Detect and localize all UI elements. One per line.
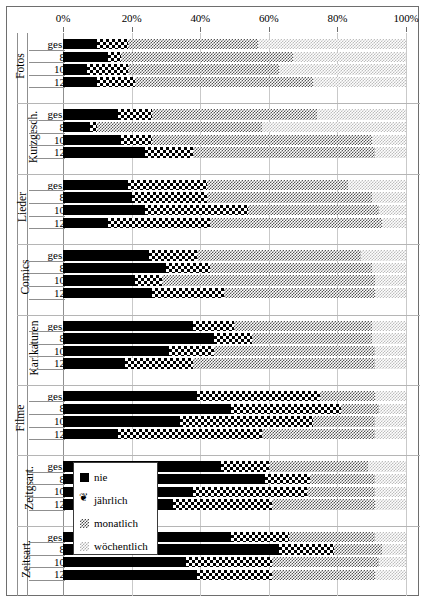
bar-row[interactable]: 12 bbox=[7, 568, 420, 581]
bar-segment-jährlich[interactable] bbox=[221, 461, 269, 471]
bar-row[interactable]: 10 bbox=[7, 274, 420, 287]
bar-row[interactable]: 8 bbox=[7, 402, 420, 415]
bar-row[interactable]: 12 bbox=[7, 498, 420, 511]
bar-segment-wöchentlich[interactable] bbox=[375, 429, 406, 439]
stacked-bar[interactable] bbox=[63, 346, 406, 356]
stacked-bar[interactable] bbox=[63, 404, 406, 414]
bar-segment-jährlich[interactable] bbox=[118, 429, 262, 439]
bar-segment-nie[interactable] bbox=[63, 416, 180, 426]
bar-row[interactable]: 10 bbox=[7, 415, 420, 428]
bar-segment-monatlich[interactable] bbox=[272, 570, 375, 580]
bar-segment-monatlich[interactable] bbox=[128, 64, 279, 74]
bar-segment-nie[interactable] bbox=[63, 122, 90, 132]
bar-segment-jährlich[interactable] bbox=[197, 391, 320, 401]
bar-row[interactable]: ges. bbox=[7, 460, 420, 473]
bar-row[interactable]: 8 bbox=[7, 543, 420, 556]
bar-segment-wöchentlich[interactable] bbox=[375, 275, 406, 285]
bar-row[interactable]: 8 bbox=[7, 473, 420, 486]
bar-segment-jährlich[interactable] bbox=[279, 544, 334, 554]
bar-segment-monatlich[interactable] bbox=[135, 77, 313, 87]
bar-row[interactable]: ges. bbox=[7, 108, 420, 121]
bar-segment-nie[interactable] bbox=[63, 109, 118, 119]
bar-segment-jährlich[interactable] bbox=[265, 474, 310, 484]
bar-row[interactable]: 8 bbox=[7, 191, 420, 204]
bar-segment-monatlich[interactable] bbox=[210, 263, 371, 273]
bar-segment-jährlich[interactable] bbox=[197, 570, 272, 580]
bar-segment-jährlich[interactable] bbox=[108, 218, 211, 228]
bar-segment-monatlich[interactable] bbox=[272, 499, 375, 509]
bar-segment-monatlich[interactable] bbox=[128, 39, 258, 49]
bar-segment-wöchentlich[interactable] bbox=[375, 416, 406, 426]
bar-segment-monatlich[interactable] bbox=[269, 461, 368, 471]
bar-segment-monatlich[interactable] bbox=[320, 391, 375, 401]
bar-segment-jährlich[interactable] bbox=[145, 205, 248, 215]
bar-segment-nie[interactable] bbox=[63, 250, 149, 260]
stacked-bar[interactable] bbox=[63, 333, 406, 343]
bar-row[interactable]: 12 bbox=[7, 76, 420, 89]
bar-row[interactable]: ges. bbox=[7, 179, 420, 192]
bar-row[interactable]: 10 bbox=[7, 63, 420, 76]
stacked-bar[interactable] bbox=[63, 147, 406, 157]
bar-segment-wöchentlich[interactable] bbox=[313, 77, 406, 87]
bar-segment-wöchentlich[interactable] bbox=[293, 52, 406, 62]
bar-segment-wöchentlich[interactable] bbox=[258, 39, 405, 49]
bar-segment-monatlich[interactable] bbox=[289, 532, 375, 542]
stacked-bar[interactable] bbox=[63, 77, 406, 87]
bar-segment-jährlich[interactable] bbox=[128, 180, 207, 190]
bar-row[interactable]: ges. bbox=[7, 531, 420, 544]
bar-segment-wöchentlich[interactable] bbox=[375, 288, 406, 298]
bar-segment-jährlich[interactable] bbox=[231, 404, 341, 414]
bar-segment-wöchentlich[interactable] bbox=[372, 135, 406, 145]
bar-segment-nie[interactable] bbox=[63, 275, 135, 285]
bar-segment-nie[interactable] bbox=[63, 346, 169, 356]
bar-segment-monatlich[interactable] bbox=[152, 109, 317, 119]
stacked-bar[interactable] bbox=[63, 275, 406, 285]
bar-row[interactable]: 12 bbox=[7, 287, 420, 300]
bar-segment-nie[interactable] bbox=[63, 205, 145, 215]
legend-item-monatlich[interactable]: monatlich bbox=[80, 516, 138, 530]
bar-segment-wöchentlich[interactable] bbox=[375, 147, 406, 157]
bar-segment-jährlich[interactable] bbox=[145, 147, 193, 157]
bar-segment-nie[interactable] bbox=[63, 77, 97, 87]
bar-segment-wöchentlich[interactable] bbox=[372, 333, 406, 343]
bar-row[interactable]: 8 bbox=[7, 332, 420, 345]
stacked-bar[interactable] bbox=[63, 358, 406, 368]
bar-segment-jährlich[interactable] bbox=[152, 288, 224, 298]
bar-row[interactable]: 12 bbox=[7, 217, 420, 230]
stacked-bar[interactable] bbox=[63, 416, 406, 426]
bar-segment-monatlich[interactable] bbox=[234, 321, 371, 331]
bar-segment-nie[interactable] bbox=[63, 404, 231, 414]
bar-segment-monatlich[interactable] bbox=[341, 404, 379, 414]
bar-row[interactable]: ges. bbox=[7, 38, 420, 51]
stacked-bar[interactable] bbox=[63, 135, 406, 145]
bar-segment-wöchentlich[interactable] bbox=[375, 487, 406, 497]
bar-segment-jährlich[interactable] bbox=[87, 64, 128, 74]
bar-segment-monatlich[interactable] bbox=[210, 218, 382, 228]
bar-segment-wöchentlich[interactable] bbox=[279, 64, 406, 74]
bar-segment-nie[interactable] bbox=[63, 321, 193, 331]
bar-row[interactable]: 8 bbox=[7, 262, 420, 275]
bar-segment-jährlich[interactable] bbox=[173, 499, 272, 509]
bar-row[interactable]: 10 bbox=[7, 556, 420, 569]
stacked-bar[interactable] bbox=[63, 180, 406, 190]
bar-segment-nie[interactable] bbox=[63, 52, 108, 62]
bar-row[interactable]: 12 bbox=[7, 357, 420, 370]
bar-segment-jährlich[interactable] bbox=[193, 487, 306, 497]
bar-segment-jährlich[interactable] bbox=[108, 52, 122, 62]
bar-row[interactable]: 12 bbox=[7, 428, 420, 441]
stacked-bar[interactable] bbox=[63, 52, 406, 62]
stacked-bar[interactable] bbox=[63, 557, 406, 567]
bar-segment-wöchentlich[interactable] bbox=[372, 263, 406, 273]
bar-row[interactable]: 8 bbox=[7, 121, 420, 134]
bar-row[interactable]: 12 bbox=[7, 146, 420, 159]
stacked-bar[interactable] bbox=[63, 192, 406, 202]
stacked-bar[interactable] bbox=[63, 250, 406, 260]
stacked-bar[interactable] bbox=[63, 109, 406, 119]
bar-segment-jährlich[interactable] bbox=[149, 250, 197, 260]
bar-segment-jährlich[interactable] bbox=[97, 39, 128, 49]
bar-segment-jährlich[interactable] bbox=[121, 135, 152, 145]
bar-segment-wöchentlich[interactable] bbox=[372, 192, 406, 202]
legend-item-woechentlich[interactable]: wöchentlich bbox=[80, 539, 148, 553]
bar-segment-monatlich[interactable] bbox=[152, 135, 372, 145]
bar-segment-wöchentlich[interactable] bbox=[368, 461, 406, 471]
